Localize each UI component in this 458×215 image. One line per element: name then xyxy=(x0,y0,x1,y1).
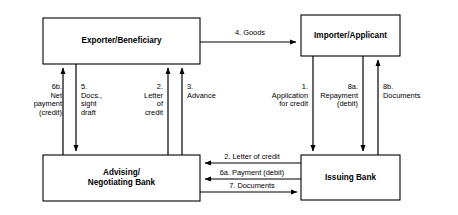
edge-label-goods: 4. Goods xyxy=(205,29,295,38)
flow-diagram: Exporter/Beneficiary Importer/Applicant … xyxy=(0,0,458,215)
node-label-exporter: Exporter/Beneficiary xyxy=(43,18,200,64)
node-label-issuing-bank: Issuing Bank xyxy=(301,155,400,200)
edge-label-net-payment: 6b. Net payment (credit) xyxy=(14,83,62,117)
edge-label-payment-debit: 6a. Payment (debit) xyxy=(205,169,299,178)
edge-label-repayment: 8a. Repayment (debit) xyxy=(317,83,358,109)
edge-label-letter-credit-2: 2. Letter of credit xyxy=(127,83,163,117)
node-label-advising-bank: Advising/ Negotiating Bank xyxy=(43,155,200,201)
edge-label-docs-draft: 5. Docs., sight draft xyxy=(81,83,129,117)
edge-label-advance: 3. Advance xyxy=(187,83,237,100)
edge-label-documents-7: 7. Documents xyxy=(205,182,299,191)
edge-label-letter-credit-bank: 2. Letter of credit xyxy=(205,153,299,162)
edge-label-documents-8b: 8b. Documents xyxy=(383,83,443,100)
edge-label-application: 1. Application for credit xyxy=(258,83,308,109)
node-label-importer: Importer/Applicant xyxy=(301,15,400,56)
